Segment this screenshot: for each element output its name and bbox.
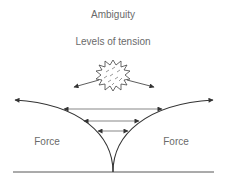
- tension-diagram: [0, 0, 227, 184]
- ambiguity-arrow-left: [74, 80, 99, 87]
- ambiguity-starburst-icon: [96, 60, 130, 91]
- right-force-curve: [113, 100, 213, 172]
- ambiguity-arrow-right: [127, 80, 154, 87]
- left-force-curve: [15, 100, 113, 172]
